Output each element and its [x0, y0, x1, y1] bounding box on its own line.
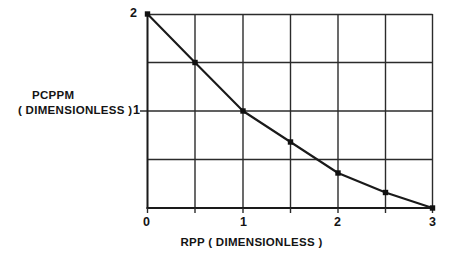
data-point: [240, 108, 245, 113]
grid-horizontal: [140, 15, 433, 209]
x-tick-label-3: 3: [429, 215, 436, 229]
x-tick-label-2: 2: [334, 215, 341, 229]
data-point: [288, 139, 293, 144]
data-point: [383, 190, 388, 195]
y-tick-label-2: 2: [130, 6, 137, 20]
y-axis-title-line2: ( DIMENSIONLESS ): [18, 103, 140, 118]
data-point: [192, 60, 197, 65]
x-axis-title: RPP ( DIMENSIONLESS ): [25, 236, 453, 248]
chart-figure: 2 1 0 1 2 3 PCPPM ( DIMENSIONLESS ) RPP …: [0, 0, 453, 265]
data-point: [335, 170, 340, 175]
x-tick-label-0: 0: [143, 215, 150, 229]
y-axis-title: PCPPM ( DIMENSIONLESS ): [18, 88, 140, 118]
data-point: [145, 11, 150, 16]
y-axis-title-line1: PCPPM: [18, 88, 140, 103]
data-point: [430, 205, 435, 210]
chart-plot-svg: [0, 0, 453, 265]
x-tick-label-1: 1: [240, 215, 247, 229]
